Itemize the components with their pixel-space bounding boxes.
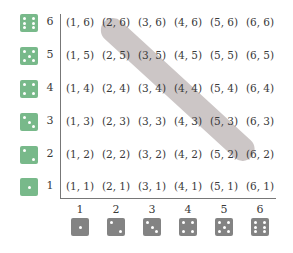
outcome-cell: (4, 6)	[170, 16, 206, 28]
outcome-cell: (5, 2)	[206, 148, 242, 160]
outcome-cell: (6, 4)	[242, 82, 278, 94]
outcome-cell: (6, 5)	[242, 49, 278, 61]
row-label-3: 3	[45, 114, 55, 127]
row-label-4: 4	[45, 81, 55, 94]
row-label-6: 6	[45, 15, 55, 28]
col-label-1: 1	[70, 203, 90, 216]
row-label-5: 5	[45, 48, 55, 61]
col-label-3: 3	[142, 203, 162, 216]
outcome-cell-highlighted: (2, 6)	[98, 16, 134, 28]
row-label-2: 2	[45, 147, 55, 160]
col-label-6: 6	[250, 203, 270, 216]
outcome-cell: (5, 5)	[206, 49, 242, 61]
die-four-icon	[20, 80, 38, 98]
outcome-cell: (3, 6)	[134, 16, 170, 28]
outcome-cell: (5, 4)	[206, 82, 242, 94]
outcome-cell: (2, 1)	[98, 180, 134, 192]
outcome-cell: (3, 3)	[134, 115, 170, 127]
outcome-cell: (5, 6)	[206, 16, 242, 28]
outcome-cell: (6, 1)	[242, 180, 278, 192]
outcome-cell: (1, 4)	[62, 82, 98, 94]
outcome-cell: (2, 5)	[98, 49, 134, 61]
outcome-cell: (6, 3)	[242, 115, 278, 127]
die-three-icon	[143, 218, 161, 236]
die-three-icon	[20, 113, 38, 131]
row-label-1: 1	[45, 179, 55, 192]
col-label-2: 2	[106, 203, 126, 216]
die-two-icon	[20, 146, 38, 164]
outcome-cell: (1, 2)	[62, 148, 98, 160]
outcome-cell: (4, 2)	[170, 148, 206, 160]
outcome-cell: (1, 5)	[62, 49, 98, 61]
outcome-cell: (1, 1)	[62, 180, 98, 192]
col-label-5: 5	[214, 203, 234, 216]
dice-sample-space-diagram: 6 5 4 3 2 1 (1, 6) (2, 6) (3, 6) (4, 6) …	[0, 0, 293, 253]
die-five-icon	[215, 218, 233, 236]
outcome-cell: (4, 3)	[170, 115, 206, 127]
die-one-icon	[71, 218, 89, 236]
outcome-cell: (2, 2)	[98, 148, 134, 160]
outcome-cell-highlighted: (4, 4)	[170, 82, 206, 94]
die-one-icon	[20, 178, 38, 196]
outcome-cell-highlighted: (6, 2)	[242, 148, 278, 160]
outcome-cell: (2, 4)	[98, 82, 134, 94]
outcome-cell: (1, 3)	[62, 115, 98, 127]
y-axis-line	[60, 14, 61, 199]
die-two-icon	[107, 218, 125, 236]
outcome-cell-highlighted: (5, 3)	[206, 115, 242, 127]
outcome-cell: (1, 6)	[62, 16, 98, 28]
die-six-icon	[251, 218, 269, 236]
die-four-icon	[179, 218, 197, 236]
die-five-icon	[20, 47, 38, 65]
die-six-icon	[20, 14, 38, 32]
outcome-cell: (5, 1)	[206, 180, 242, 192]
outcome-cell: (3, 4)	[134, 82, 170, 94]
outcome-cell: (2, 3)	[98, 115, 134, 127]
col-label-4: 4	[178, 203, 198, 216]
outcome-cell-highlighted: (3, 5)	[134, 49, 170, 61]
outcome-cell: (6, 6)	[242, 16, 278, 28]
x-axis-line	[60, 198, 276, 199]
outcome-cell: (3, 1)	[134, 180, 170, 192]
outcome-cell: (4, 1)	[170, 180, 206, 192]
outcome-cell: (3, 2)	[134, 148, 170, 160]
outcome-cell: (4, 5)	[170, 49, 206, 61]
